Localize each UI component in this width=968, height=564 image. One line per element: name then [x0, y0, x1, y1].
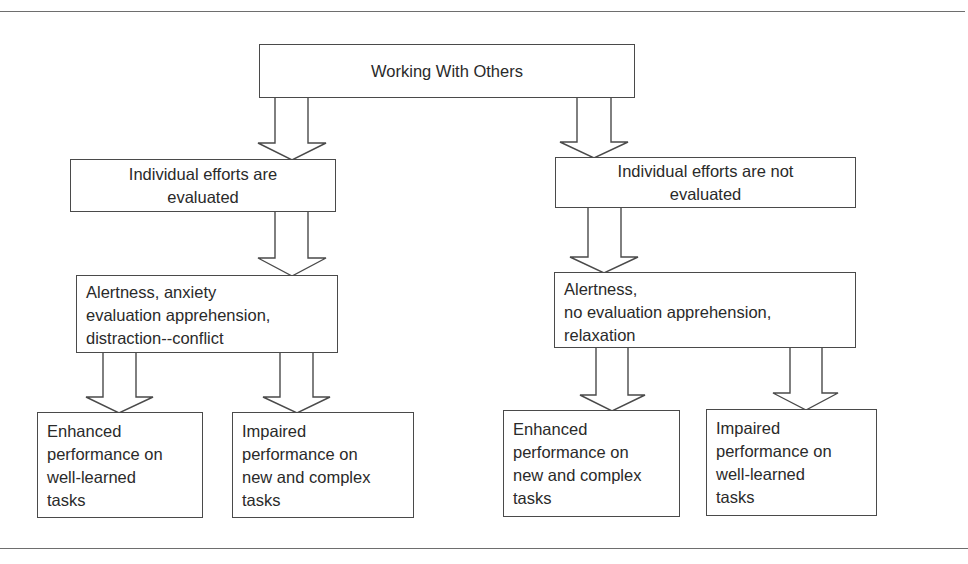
outcome-label-line: well-learned [47, 466, 202, 489]
down-arrow-icon [86, 352, 153, 413]
outcome-label-line: well-learned [716, 463, 876, 486]
down-arrow-icon [263, 352, 330, 413]
state-label-line: distraction--conflict [86, 327, 337, 350]
outcome-label-line: performance on [242, 443, 413, 466]
down-arrow-icon [580, 347, 645, 411]
outcome-label-line: performance on [716, 440, 876, 463]
condition-box-evaluated: Individual efforts are evaluated [70, 159, 336, 212]
outcome-label-line: tasks [716, 486, 876, 509]
state-label-line: Alertness, [564, 278, 855, 301]
outcome-label-line: performance on [513, 441, 679, 464]
state-label-line: relaxation [564, 324, 855, 347]
outcome-label-line: performance on [47, 443, 202, 466]
outcome-label-line: new and complex [242, 466, 413, 489]
down-arrow-icon [570, 207, 638, 273]
down-arrow-icon [258, 211, 326, 276]
condition-label-line: Individual efforts are not [618, 160, 794, 183]
condition-box-not-evaluated: Individual efforts are not evaluated [555, 157, 856, 208]
outcome-label-line: tasks [47, 489, 202, 512]
outcome-label-line: tasks [242, 489, 413, 512]
outcome-box-impaired-new-complex: Impaired performance on new and complex … [232, 412, 414, 518]
outcome-label-line: Impaired [242, 420, 413, 443]
state-box-alertness-relaxation: Alertness, no evaluation apprehension, r… [554, 272, 856, 348]
state-label-line: no evaluation apprehension, [564, 301, 855, 324]
outcome-box-impaired-well-learned: Impaired performance on well-learned tas… [706, 409, 877, 516]
state-label-line: Alertness, anxiety [86, 281, 337, 304]
condition-label-line: evaluated [167, 186, 239, 209]
down-arrow-icon [258, 97, 326, 160]
outcome-label-line: new and complex [513, 464, 679, 487]
outcome-label-line: Enhanced [513, 418, 679, 441]
outcome-box-enhanced-new-complex: Enhanced performance on new and complex … [503, 410, 680, 517]
condition-label-line: Individual efforts are [129, 163, 277, 186]
root-label: Working With Others [371, 60, 523, 83]
outcome-box-enhanced-well-learned: Enhanced performance on well-learned tas… [37, 412, 203, 518]
outcome-label-line: Enhanced [47, 420, 202, 443]
condition-label-line: evaluated [670, 183, 742, 206]
down-arrow-icon [560, 97, 628, 158]
outcome-label-line: tasks [513, 487, 679, 510]
root-box-working-with-others: Working With Others [259, 44, 635, 98]
state-box-alertness-anxiety: Alertness, anxiety evaluation apprehensi… [76, 275, 338, 353]
down-arrow-icon [773, 347, 838, 410]
outcome-label-line: Impaired [716, 417, 876, 440]
state-label-line: evaluation apprehension, [86, 304, 337, 327]
